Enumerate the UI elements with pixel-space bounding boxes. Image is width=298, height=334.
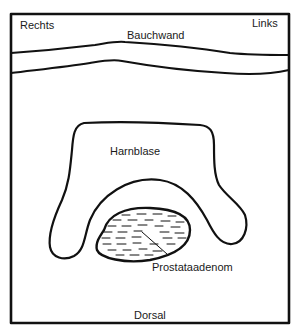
abdominal-wall-upper-contour (11, 42, 289, 55)
ultrasound-cross-section-diagram: Rechts Links Bauchwand Harnblase Prostat… (0, 0, 298, 334)
frame-border (11, 14, 289, 323)
abdominal-wall-lower-contour (11, 60, 289, 74)
label-bladder: Harnblase (110, 145, 160, 157)
label-prostate-adenoma: Prostataadenom (152, 261, 233, 273)
prostate-hatching (102, 214, 186, 255)
label-left: Links (252, 17, 278, 29)
label-dorsal: Dorsal (134, 309, 166, 321)
label-right: Rechts (20, 19, 55, 31)
label-abdominal-wall: Bauchwand (127, 29, 185, 41)
